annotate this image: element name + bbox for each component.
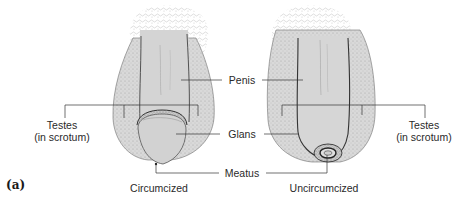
label-testes-left: Testes (in scrotum) — [32, 119, 91, 143]
caption-circumcized: Circumcized — [130, 182, 188, 194]
label-testes-left-line1: Testes — [34, 119, 89, 131]
circumcized-figure — [113, 6, 214, 166]
label-testes-right-line1: Testes — [396, 119, 451, 131]
label-testes-left-line2: (in scrotum) — [34, 131, 89, 143]
panel-label: (a) — [6, 178, 25, 192]
label-meatus: Meatus — [223, 167, 261, 179]
label-penis: Penis — [227, 74, 257, 86]
penis-shaft-right — [295, 36, 351, 158]
penis-shaft-left — [139, 30, 191, 120]
uncircumcized-figure — [267, 6, 375, 162]
label-testes-right-line2: (in scrotum) — [396, 131, 451, 143]
caption-uncircumcized: Uncircumcized — [290, 182, 359, 194]
label-testes-right: Testes (in scrotum) — [394, 119, 453, 143]
label-glans: Glans — [226, 128, 257, 140]
